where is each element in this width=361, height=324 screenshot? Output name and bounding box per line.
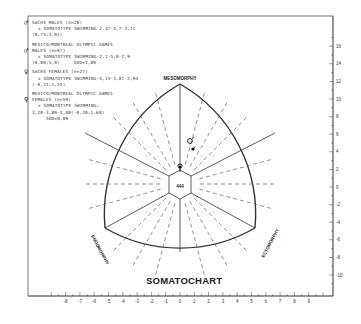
y-tick-label: 4 — [336, 149, 339, 154]
x-tick-label: 8 — [293, 299, 296, 304]
y-tick-label: -6 — [336, 237, 340, 242]
y-tick-label: -10 — [336, 273, 343, 278]
y-tick-label: -4 — [336, 220, 340, 225]
x-tick-label: -7 — [78, 299, 82, 304]
y-tick-label: 14 — [336, 61, 342, 66]
x-tick-label: 0 — [179, 299, 182, 304]
y-tick-label: -8 — [336, 255, 340, 260]
data-points — [178, 137, 196, 172]
x-tick-label: -6 — [92, 299, 96, 304]
ectomorphy-label: ECTOMORPHY — [260, 228, 280, 259]
x-tick-label: 4 — [236, 299, 239, 304]
x-tick-label: 2 — [207, 299, 210, 304]
x-tick-label: 5 — [250, 299, 253, 304]
legend-line: (0,75;3,91) — [32, 32, 168, 38]
legend-line: (-0,21;1,55) — [32, 82, 168, 88]
legend-olympic-females: ♀ MEXICO/MONTREAL OLYMPIC GAMES FEMALES … — [28, 91, 168, 122]
x-tick-label: -2 — [149, 299, 153, 304]
x-tick-label: 1 — [193, 299, 196, 304]
y-tick-label: -2 — [336, 202, 340, 207]
chart-title: SOMATOCHART — [146, 275, 222, 286]
x-tick-label: -3 — [135, 299, 139, 304]
x-tick-label: -8 — [64, 299, 68, 304]
x-axis-ticks: -8-7-6-5-4-3-2-10123456789 — [51, 292, 323, 304]
x-tick-label: -5 — [106, 299, 110, 304]
y-tick-label: 0 — [336, 185, 339, 190]
endomorphy-label: ENDOMORPHY — [90, 234, 110, 265]
legend: ♂ SACHS MALES (n=28) x SOMATOTYPE SWIMMI… — [28, 20, 168, 125]
y-tick-label: 6 — [336, 132, 339, 137]
center-label: 444 — [176, 184, 184, 189]
female-open-icon: ♀ — [24, 97, 29, 103]
y-tick-label: 16 — [336, 44, 342, 49]
y-axis-ticks: 1614121086420-2-4-6-8-10 — [329, 37, 343, 283]
legend-line: (0,80;5,0) SOD=1,89 — [32, 60, 168, 66]
mesomorphy-label: MESOMORPHY — [163, 76, 196, 81]
y-tick-label: 2 — [336, 167, 339, 172]
x-tick-label: -1 — [164, 299, 168, 304]
male-filled-icon: ♂ — [24, 20, 28, 26]
male-open-icon: ♂ — [24, 48, 28, 54]
point-sachs-males — [191, 147, 195, 151]
x-tick-label: 3 — [222, 299, 225, 304]
x-tick-label: 7 — [279, 299, 282, 304]
y-tick-label: 10 — [336, 97, 342, 102]
legend-olympic-males: ♂ MEXICO/MONTREAL OLYMPIC GAMES MALES (n… — [28, 42, 168, 67]
legend-line: SOD=0,09 — [32, 116, 168, 122]
x-tick-label: -4 — [121, 299, 125, 304]
x-tick-label: 9 — [307, 299, 310, 304]
female-filled-icon: ♀ — [24, 69, 28, 75]
x-tick-label: 6 — [265, 299, 268, 304]
legend-sachs-females: ♀ SACHS FEMALES (n=27) x SOMATOTYPE SWIM… — [28, 69, 168, 88]
y-tick-label: 12 — [336, 79, 342, 84]
legend-sachs-males: ♂ SACHS MALES (n=28) x SOMATOTYPE SWIMMI… — [28, 20, 168, 39]
y-tick-label: 8 — [336, 114, 339, 119]
